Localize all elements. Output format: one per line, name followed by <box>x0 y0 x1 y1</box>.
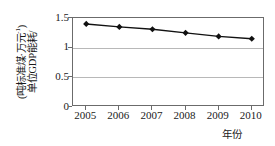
data-point <box>249 36 255 42</box>
x-tick-label: 2010 <box>231 110 271 121</box>
y-tick-label: 1.5 <box>9 12 69 23</box>
data-point <box>216 33 222 39</box>
x-axis-label: 年份 <box>222 126 243 141</box>
series-line <box>86 24 252 39</box>
chart-figure: 单位GDP能耗/ (吨标准煤·万元-1) 00.511.5 2005200620… <box>0 0 275 146</box>
y-tick-label: 0.5 <box>9 71 69 82</box>
data-point <box>116 24 122 30</box>
plot-area <box>72 17 264 106</box>
y-axis-label-text: 单位GDP能耗/ (吨标准煤·万元-1) <box>16 25 38 99</box>
y-axis-label-exponent: -1 <box>14 28 22 33</box>
y-tick-label: 0 <box>9 101 69 112</box>
data-series <box>73 18 265 107</box>
y-axis-label-line-2-suffix: ) <box>16 25 27 28</box>
data-point <box>182 30 188 36</box>
y-tick-mark <box>68 106 72 107</box>
data-point <box>149 26 155 32</box>
data-point <box>83 21 89 27</box>
y-axis-label-line-2: (吨标准煤·万元-1) <box>16 25 27 99</box>
y-tick-label: 1 <box>9 41 69 52</box>
